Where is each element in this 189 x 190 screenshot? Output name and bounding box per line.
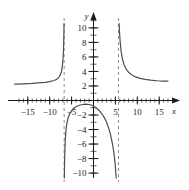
- y-tick-label: 6: [82, 52, 87, 62]
- y-tick-label: −8: [77, 154, 87, 164]
- x-tick-label: −15: [21, 107, 36, 117]
- y-tick-label: −6: [77, 139, 87, 149]
- axis-layer: [8, 12, 180, 178]
- y-axis-label: y: [84, 11, 89, 21]
- right-branch: [119, 24, 168, 82]
- y-tick-label: −4: [77, 125, 87, 135]
- y-tick-label: 4: [82, 67, 87, 77]
- x-axis-arrowhead: [172, 98, 180, 104]
- cartesian-plot: −15−10−551015246810−2−4−6−8−10 x y: [0, 0, 189, 190]
- function-graph-figure: −15−10−551015246810−2−4−6−8−10 x y: [0, 0, 189, 190]
- y-tick-label: 2: [82, 81, 87, 91]
- left-branch: [15, 24, 64, 85]
- y-tick-label: 10: [78, 23, 88, 33]
- x-tick-label: −5: [67, 107, 77, 117]
- y-axis-arrowhead: [91, 12, 97, 20]
- y-tick-label: 8: [82, 38, 87, 48]
- x-axis-label: x: [171, 106, 176, 116]
- x-tick-label: 5: [113, 107, 118, 117]
- y-tick-label: −2: [77, 110, 87, 120]
- x-tick-label: 15: [155, 107, 165, 117]
- y-tick-label: −10: [72, 168, 87, 178]
- x-tick-label: 10: [133, 107, 143, 117]
- x-tick-label: −10: [43, 107, 58, 117]
